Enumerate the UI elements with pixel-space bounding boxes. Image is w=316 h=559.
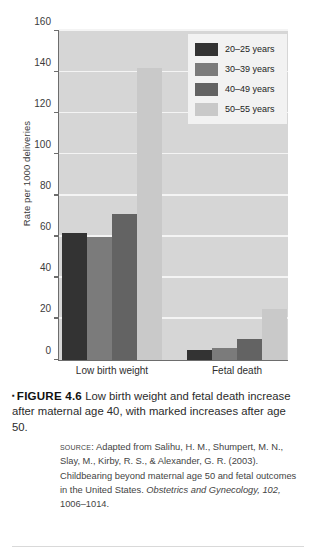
legend-swatch-icon [195,83,218,96]
y-axis-tick-mark [54,194,59,195]
y-axis-tick-label: 120 [34,97,51,108]
y-axis-tick-label: 80 [40,180,51,191]
figure-caption-block: ▪FIGURE 4.6 Low birth weight and fetal d… [0,388,316,511]
legend-item: 40–49 years [195,79,283,99]
legend-label: 40–49 years [225,84,275,94]
y-axis-tick-label: 60 [40,221,51,232]
y-axis-tick-label: 160 [34,15,51,26]
bar [87,237,112,360]
x-axis-category-label: Low birth weight [76,365,148,376]
y-axis-tick-label: 100 [34,138,51,149]
y-axis-tick-mark [54,30,59,31]
figure-bullet-icon: ▪ [12,391,15,400]
chart-legend: 20–25 years30–39 years40–49 years50–55 y… [188,34,287,124]
legend-swatch-icon [195,103,218,116]
figure-container: Rate per 1000 deliveries 020406080100120… [0,0,316,386]
legend-swatch-icon [195,63,218,76]
gridline [59,194,288,196]
figure-number-label: FIGURE 4.6 [17,389,82,402]
figure-caption: ▪FIGURE 4.6 Low birth weight and fetal d… [12,388,302,435]
legend-item: 50–55 years [195,99,283,119]
source-journal: Obstetrics and Gynecology, 102, [146,485,280,495]
y-axis-tick-mark [54,235,59,236]
y-axis-tick-label: 0 [45,344,51,355]
y-axis-tick-mark [54,112,59,113]
figure-source-block: Source: Adapted from Salihu, H. M., Shum… [60,440,302,511]
bar [212,348,237,360]
source-text-part2: 1006–1014. [60,499,109,509]
y-axis-tick-label: 140 [34,56,51,67]
bar [262,309,287,360]
bar [112,214,137,360]
legend-item: 30–39 years [195,59,283,79]
y-axis-title: Rate per 1000 deliveries [21,74,32,274]
legend-label: 20–25 years [225,44,275,54]
y-axis-tick-mark [54,359,59,360]
bar [137,68,162,360]
bottom-divider [12,546,304,547]
legend-swatch-icon [195,43,218,56]
legend-label: 50–55 years [225,104,275,114]
legend-item: 20–25 years [195,39,283,59]
y-axis-tick-mark [54,153,59,154]
y-axis-tick-label: 20 [40,303,51,314]
legend-label: 30–39 years [225,64,275,74]
y-axis-tick-mark [54,71,59,72]
gridline [59,29,288,31]
source-label: Source: [60,442,94,452]
bar [187,350,212,360]
gridline [59,153,288,155]
x-axis-category-label: Fetal death [212,365,262,376]
y-axis-tick-mark [54,276,59,277]
bar [237,339,262,360]
bar [62,233,87,360]
y-axis-tick-mark [54,317,59,318]
y-axis-tick-label: 40 [40,262,51,273]
